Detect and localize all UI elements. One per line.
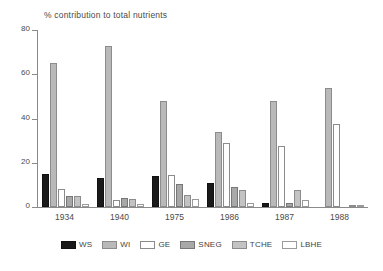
bar-lbhe-1975 [192, 199, 199, 207]
legend-item-ge[interactable]: GE [140, 240, 170, 249]
bar-tche-1934 [74, 196, 81, 207]
bar-ge-1986 [223, 143, 230, 207]
bar-wi-1987 [270, 101, 277, 207]
legend-item-tche[interactable]: TCHE [232, 240, 273, 249]
bar-group [42, 30, 89, 207]
x-axis-line [37, 207, 368, 208]
bar-wi-1988 [325, 88, 332, 207]
bar-group [207, 30, 254, 207]
y-axis-tick-label: 80 [2, 25, 30, 33]
legend-label-lbhe: LBHE [300, 240, 322, 249]
legend-item-ws[interactable]: WS [61, 240, 92, 249]
bar-ge-1934 [58, 189, 65, 207]
legend-swatch-sneg [180, 241, 195, 249]
legend-swatch-tche [232, 241, 247, 249]
bar-tche-1975 [184, 195, 191, 207]
legend-item-wi[interactable]: WI [102, 240, 130, 249]
x-axis-tick-label: 1975 [147, 212, 202, 222]
x-axis-tick-label: 1934 [37, 212, 92, 222]
legend-swatch-ge [140, 241, 155, 249]
y-axis-tick-label: 0 [2, 202, 30, 210]
legend-label-ge: GE [158, 240, 170, 249]
bar-lbhe-1934 [82, 204, 89, 207]
bar-group [97, 30, 144, 207]
bar-group [262, 30, 309, 207]
bar-tche-1988 [349, 205, 356, 207]
bar-wi-1934 [50, 63, 57, 207]
legend-swatch-ws [61, 241, 76, 249]
bar-ge-1988 [333, 124, 340, 207]
chart-legend: WSWIGESNEGTCHELBHE [0, 240, 383, 249]
bar-ws-1934 [42, 174, 49, 207]
plot-area [37, 30, 367, 207]
bar-ws-1986 [207, 183, 214, 207]
bar-wi-1986 [215, 132, 222, 207]
legend-label-ws: WS [79, 240, 92, 249]
x-axis-tick-label: 1940 [92, 212, 147, 222]
legend-label-sneg: SNEG [198, 240, 221, 249]
bar-lbhe-1940 [137, 204, 144, 207]
legend-label-wi: WI [120, 240, 130, 249]
bar-sneg-1934 [66, 196, 73, 207]
legend-item-sneg[interactable]: SNEG [180, 240, 221, 249]
bar-ge-1987 [278, 146, 285, 207]
bar-ge-1940 [113, 200, 120, 207]
bar-ws-1940 [97, 178, 104, 207]
bar-ge-1975 [168, 175, 175, 207]
legend-swatch-wi [102, 241, 117, 249]
legend-item-lbhe[interactable]: LBHE [282, 240, 322, 249]
x-axis-tick-label: 1988 [312, 212, 367, 222]
y-axis-tick-label: 60 [2, 69, 30, 77]
bar-tche-1940 [129, 199, 136, 207]
x-axis-tick-label: 1986 [202, 212, 257, 222]
bar-tche-1987 [294, 190, 301, 207]
legend-label-tche: TCHE [250, 240, 273, 249]
bar-wi-1975 [160, 101, 167, 207]
bar-sneg-1940 [121, 198, 128, 207]
bar-lbhe-1988 [357, 205, 364, 207]
bar-ws-1987 [262, 203, 269, 207]
bar-sneg-1986 [231, 187, 238, 207]
bar-tche-1986 [239, 190, 246, 207]
bar-wi-1940 [105, 46, 112, 208]
bar-chart: % contribution to total nutrients 020406… [0, 0, 383, 271]
bar-lbhe-1987 [302, 200, 309, 207]
bar-sneg-1975 [176, 184, 183, 207]
bar-group [152, 30, 199, 207]
bar-lbhe-1986 [247, 203, 254, 207]
y-axis-tick-label: 20 [2, 158, 30, 166]
x-axis-tick-label: 1987 [257, 212, 312, 222]
y-axis-tick-label: 40 [2, 114, 30, 122]
bar-group [317, 30, 364, 207]
bar-sneg-1987 [286, 203, 293, 207]
legend-swatch-lbhe [282, 241, 297, 249]
chart-title: % contribution to total nutrients [44, 10, 167, 20]
bar-ws-1975 [152, 176, 159, 207]
